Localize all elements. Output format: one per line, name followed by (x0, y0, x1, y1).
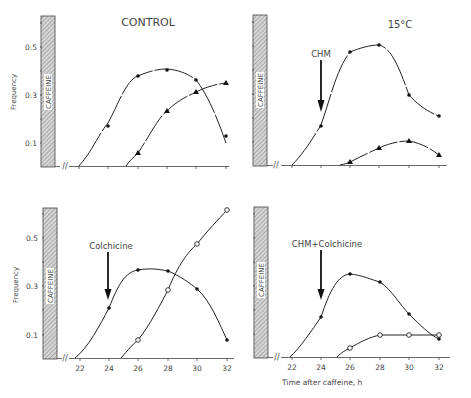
axis-break: // (274, 353, 280, 362)
series-open-circles (121, 210, 227, 358)
annotation-colchicine: Colchicine (89, 241, 133, 251)
y-tick-0.5: 0.5 (26, 234, 38, 243)
panel-colchicine: CAFFEINE Frequency 0.5 0.3 0.1 // 22 24 … (12, 208, 234, 373)
x-tick: 24 (104, 364, 114, 373)
arrow-head-icon (318, 100, 325, 112)
series-open-circles (337, 335, 439, 357)
annotation-chm: CHM (311, 49, 331, 59)
axis-break: // (62, 354, 68, 363)
y-tick-0.1: 0.1 (25, 139, 37, 148)
y-axis-label: Frequency (12, 267, 20, 303)
y-tick-0.3: 0.3 (26, 282, 38, 291)
figure: CAFFEINE CONTROL Frequency 0.5 0.3 0.1 /… (0, 0, 471, 398)
panel-chm-colchicine: CAFFEINE // 22 24 26 28 30 32 Time after… (253, 207, 450, 387)
x-tick: 26 (345, 363, 355, 372)
axis-break: // (273, 161, 279, 170)
caffeine-label: CAFFEINE (47, 269, 55, 303)
panel-control: CAFFEINE CONTROL Frequency 0.5 0.3 0.1 /… (10, 16, 229, 171)
caffeine-label: CAFFEINE (257, 73, 265, 107)
x-axis-label: Time after caffeine, h (281, 378, 363, 387)
x-tick: 28 (163, 364, 173, 373)
x-tick: 28 (375, 363, 385, 372)
panel-15c: CAFFEINE 15°C // CHM (252, 15, 447, 170)
x-tick: 30 (404, 363, 414, 372)
axis-break: // (62, 162, 68, 171)
x-tick: 22 (287, 363, 297, 372)
x-tick: 30 (192, 364, 202, 373)
caffeine-label: CAFFEINE (258, 263, 266, 297)
caffeine-label: CAFFEINE (45, 75, 53, 109)
x-tick: 32 (222, 364, 232, 373)
panel-title: CONTROL (121, 16, 176, 29)
series-filled-triangles (126, 83, 226, 166)
x-tick: 32 (434, 363, 444, 372)
annotation-chm-colchicine: CHM+Colchicine (292, 239, 362, 249)
y-axis-label: Frequency (10, 74, 18, 110)
y-tick-0.3: 0.3 (25, 91, 37, 100)
series-filled-triangles (340, 141, 439, 165)
arrow-head-icon (105, 289, 112, 300)
x-tick: 24 (316, 363, 326, 372)
series-filled-circles (292, 45, 439, 165)
x-tick: 22 (75, 364, 85, 373)
y-tick-0.1: 0.1 (26, 331, 38, 340)
series-filled-circles (79, 69, 226, 166)
series-filled-circles (290, 274, 439, 357)
arrow-head-icon (318, 289, 325, 300)
panel-title: 15°C (388, 19, 413, 30)
x-tick: 26 (133, 364, 143, 373)
y-tick-0.5: 0.5 (25, 43, 37, 52)
series-filled-circles (75, 269, 227, 358)
